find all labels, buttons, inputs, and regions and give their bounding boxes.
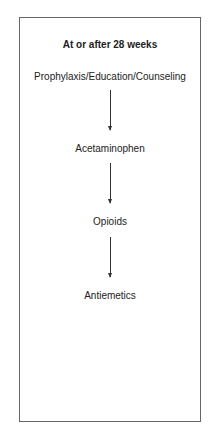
flowchart-title: At or after 28 weeks [20,39,200,50]
arrow-down-icon [110,163,111,203]
step-opioids: Opioids [20,216,200,227]
step-prophylaxis: Prophylaxis/Education/Counseling [20,71,200,82]
flowchart-box: At or after 28 weeks Prophylaxis/Educati… [19,17,201,422]
arrow-down-icon [110,237,111,277]
step-antiemetics: Antiemetics [20,290,200,301]
step-acetaminophen: Acetaminophen [20,143,200,154]
arrow-down-icon [110,90,111,130]
